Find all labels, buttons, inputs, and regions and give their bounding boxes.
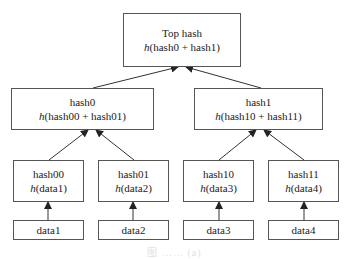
node-hash0: hash0 h(hash00 + hash01) xyxy=(11,88,154,130)
node-hash11: hash11 h(data4) xyxy=(268,160,339,202)
figure-caption: 图 …… (a) xyxy=(0,244,349,259)
node-title: hash11 xyxy=(288,167,319,181)
node-formula: h(hash0 + hash1) xyxy=(144,40,220,54)
node-formula: h(data3) xyxy=(200,181,237,195)
node-formula: h(data2) xyxy=(115,181,152,195)
node-formula: h(hash00 + hash01) xyxy=(39,109,126,123)
node-formula: h(hash10 + hash11) xyxy=(215,109,301,123)
node-title: data4 xyxy=(292,223,316,237)
node-data4: data4 xyxy=(268,220,339,240)
node-hash1: hash1 h(hash10 + hash11) xyxy=(194,88,323,130)
node-title: Top hash xyxy=(162,26,202,40)
node-title: data1 xyxy=(37,223,61,237)
node-title: hash0 xyxy=(70,95,96,109)
node-title: hash10 xyxy=(203,167,234,181)
node-top-hash: Top hash h(hash0 + hash1) xyxy=(123,13,241,67)
node-title: data3 xyxy=(207,223,231,237)
node-hash01: hash01 h(data2) xyxy=(98,160,169,202)
node-data1: data1 xyxy=(13,220,84,240)
node-data2: data2 xyxy=(98,220,169,240)
node-title: hash00 xyxy=(33,167,64,181)
node-formula: h(data4) xyxy=(285,181,322,195)
node-data3: data3 xyxy=(183,220,254,240)
node-hash10: hash10 h(data3) xyxy=(183,160,254,202)
node-formula: h(data1) xyxy=(30,181,67,195)
node-title: hash1 xyxy=(246,95,272,109)
node-hash00: hash00 h(data1) xyxy=(13,160,84,202)
node-title: data2 xyxy=(122,223,146,237)
node-title: hash01 xyxy=(118,167,149,181)
